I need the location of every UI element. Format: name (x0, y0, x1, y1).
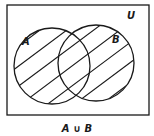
venn-diagram: U A B A ∪ B (0, 0, 154, 136)
universe-rectangle (7, 5, 149, 115)
universe-label: U (127, 10, 135, 21)
caption: A ∪ B (61, 123, 92, 134)
set-b-circle (58, 25, 134, 101)
set-b-label: B (112, 34, 120, 45)
set-a-label: A (21, 36, 30, 47)
